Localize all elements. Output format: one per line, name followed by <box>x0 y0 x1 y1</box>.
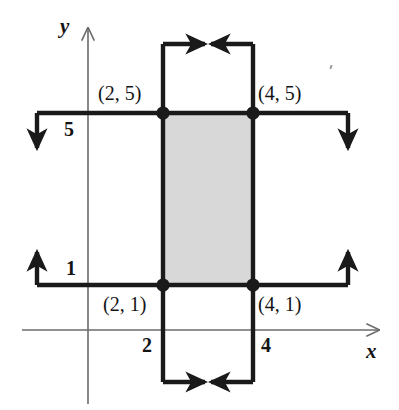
x-tick-label-4: 4 <box>261 335 271 355</box>
vertex-dot-2-5 <box>156 106 169 119</box>
vertex-dot-2-1 <box>156 278 169 291</box>
y-tick-label-1: 1 <box>66 258 76 278</box>
y-tick-label-5: 5 <box>64 119 74 139</box>
point-label-4-5: (4, 5) <box>258 83 301 103</box>
figure-canvas <box>0 0 399 410</box>
coordinate-plane-figure: (2, 5) (4, 5) (2, 1) (4, 1) 5 1 2 4 y x <box>0 0 399 410</box>
vertex-dot-4-1 <box>246 278 259 291</box>
vertex-dot-4-5 <box>246 106 259 119</box>
point-label-4-1: (4, 1) <box>258 294 301 314</box>
y-axis-label: y <box>60 16 69 37</box>
point-label-2-1: (2, 1) <box>103 294 146 314</box>
x-tick-label-2: 2 <box>142 335 152 355</box>
shaded-region <box>163 113 253 285</box>
point-label-2-5: (2, 5) <box>98 83 141 103</box>
x-axis-label: x <box>366 341 377 362</box>
